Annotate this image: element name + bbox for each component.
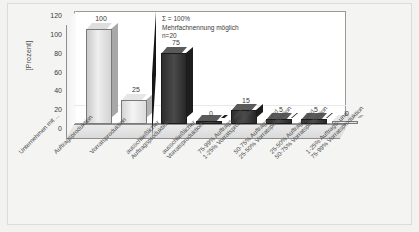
bar-face	[86, 29, 112, 124]
bar-face	[161, 53, 187, 124]
y-tick-20: 20	[36, 106, 62, 113]
bar-side	[111, 23, 118, 118]
y-tick-60: 60	[36, 69, 62, 76]
chart-screenshot: [Prozent] 120 100 80 60 40 20 0 100	[0, 0, 419, 232]
x-axis-labels: Unternehmen mit ... Auftragsproduktion V…	[0, 140, 419, 230]
bar-side	[186, 47, 193, 118]
y-tick-120: 120	[36, 12, 62, 19]
bar-side	[256, 104, 263, 118]
y-tick-100: 100	[36, 31, 62, 38]
bar-side	[291, 113, 298, 118]
annotation-line-multi: Mehrfachnennung möglich	[162, 24, 239, 33]
bar-auftragsproduktion[interactable]	[86, 29, 112, 124]
bar-value-label-0: 100	[86, 15, 116, 22]
bar-value-label-3: 0	[196, 110, 226, 117]
annotation-line-sum: Σ = 100%	[162, 15, 239, 24]
bar-ausschliesslicher-auftragsproduktion[interactable]	[161, 53, 187, 124]
bar-value-label-1: 25	[121, 86, 151, 93]
annotation-line-n: n=20	[162, 32, 239, 41]
y-axis-title: [Prozent]	[25, 26, 32, 86]
annotation-block: Σ = 100% Mehrfachnennung möglich n=20	[162, 15, 239, 41]
y-tick-40: 40	[36, 87, 62, 94]
y-tick-80: 80	[36, 50, 62, 57]
